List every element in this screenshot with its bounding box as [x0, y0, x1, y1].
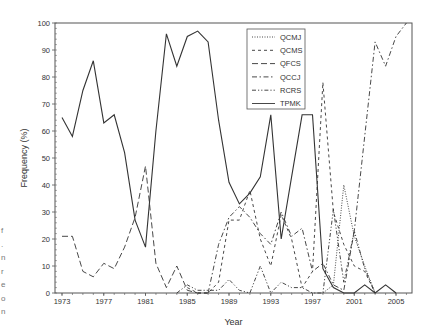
- series-line-qfcs: [62, 166, 208, 293]
- y-tick-label: 10: [42, 262, 50, 271]
- x-axis-title: Year: [224, 317, 242, 327]
- legend-label-qcms: QCMS: [280, 46, 303, 55]
- legend-label-qcmj: QCMJ: [280, 33, 301, 42]
- x-tick-label: 1977: [95, 297, 112, 306]
- series-line-qccj: [208, 23, 406, 293]
- series-line-rcrs: [177, 209, 375, 293]
- x-tick-label: 1993: [262, 297, 279, 306]
- x-tick-label: 1973: [54, 297, 71, 306]
- series-line-tpmk: [62, 31, 396, 293]
- y-tick-label: 20: [42, 235, 50, 244]
- y-tick-label: 70: [42, 100, 50, 109]
- caption-fragment: e: [1, 280, 5, 289]
- y-tick-label: 50: [42, 154, 50, 163]
- caption-fragment: n: [1, 253, 5, 262]
- y-axis-title: Frequency (%): [19, 128, 29, 187]
- series-line-qcms: [187, 82, 375, 293]
- x-tick-label: 1981: [137, 297, 154, 306]
- legend: QCMJQCMSQFCSQCCJRCRSTPMK: [247, 29, 305, 109]
- x-tick-label: 2005: [388, 297, 405, 306]
- caption-fragment: r: [1, 267, 4, 276]
- y-tick-label: 60: [42, 127, 50, 136]
- caption-fragment: o: [1, 294, 5, 303]
- x-tick-label: 1997: [304, 297, 321, 306]
- line-chart: 0102030405060708090100197319771981198519…: [0, 0, 433, 336]
- y-tick-label: 90: [42, 46, 50, 55]
- caption-fragment: .: [1, 240, 3, 249]
- caption-fragment: f: [1, 226, 3, 235]
- x-tick-label: 1985: [179, 297, 196, 306]
- plot-frame: [55, 23, 412, 293]
- caption-fragment: n: [1, 307, 5, 316]
- y-tick-label: 0: [46, 289, 50, 298]
- legend-label-tpmk: TPMK: [280, 99, 301, 108]
- y-tick-label: 80: [42, 73, 50, 82]
- legend-label-qfcs: QFCS: [280, 59, 301, 68]
- y-tick-label: 40: [42, 181, 50, 190]
- legend-label-rcrs: RCRS: [280, 86, 301, 95]
- x-tick-label: 1989: [221, 297, 238, 306]
- legend-label-qccj: QCCJ: [280, 73, 301, 82]
- y-tick-label: 30: [42, 208, 50, 217]
- x-tick-label: 2001: [346, 297, 363, 306]
- y-tick-label: 100: [37, 19, 50, 28]
